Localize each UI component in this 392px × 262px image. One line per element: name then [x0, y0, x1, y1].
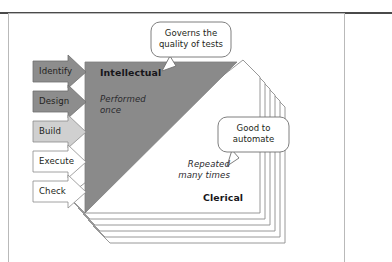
callout-quality-line2: quality of tests [151, 39, 231, 50]
clerical-region-subtitle-line1: Repeated [120, 160, 230, 170]
intellectual-region-subtitle-line1: Performed [100, 95, 146, 105]
process-arrow-label-execute: Execute [39, 157, 74, 167]
clerical-region-subtitle-line2: many times [120, 171, 230, 181]
process-arrow-label-design: Design [39, 97, 69, 107]
intellectual-region-title: Intellectual [100, 68, 161, 79]
callout-automate-line1: Good to [218, 123, 289, 134]
process-arrow-label-identify: Identify [39, 67, 72, 77]
callout-automate-line2: automate [218, 134, 289, 145]
clerical-region-title: Clerical [203, 193, 243, 204]
process-arrow-label-check: Check [39, 187, 66, 197]
callout-quality-line1: Governs the [151, 28, 231, 39]
process-arrow-label-build: Build [39, 127, 61, 137]
intellectual-region-subtitle-line2: once [100, 106, 121, 116]
